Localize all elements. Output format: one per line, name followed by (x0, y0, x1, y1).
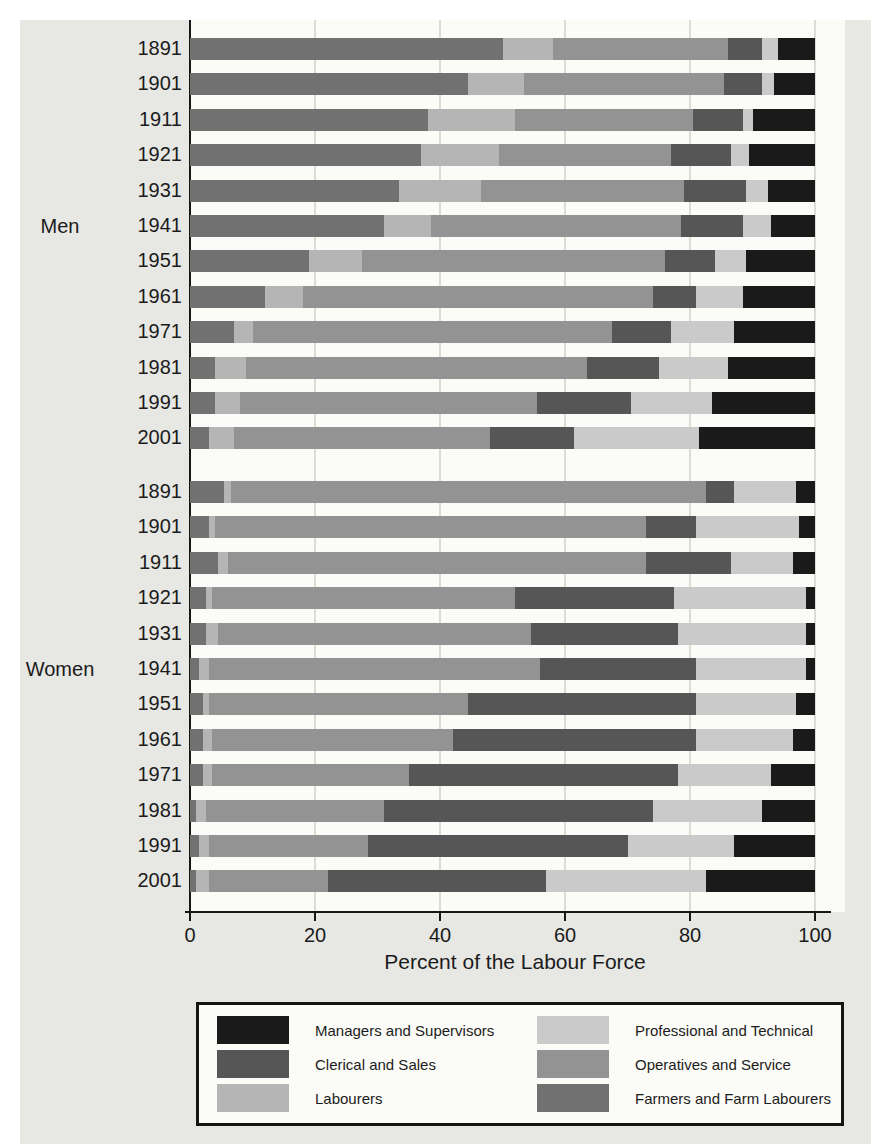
x-tick (814, 913, 816, 921)
bar-segment (362, 250, 665, 272)
bar-segment (481, 180, 684, 202)
bar-segment (499, 144, 671, 166)
bar-segment (265, 286, 303, 308)
bar-segment (218, 623, 531, 645)
year-label: 1951 (0, 692, 182, 715)
bar-segment (209, 658, 540, 680)
year-label: 1931 (0, 179, 182, 202)
bar-segment (665, 250, 715, 272)
bar-row-women-1951 (190, 693, 815, 715)
bar-segment (190, 109, 428, 131)
bar-segment (212, 587, 515, 609)
bar-segment (190, 144, 421, 166)
bar-segment (734, 321, 815, 343)
bar-row-women-1901 (190, 516, 815, 538)
bar-segment (712, 392, 815, 414)
bar-segment (368, 835, 627, 857)
bar-segment (328, 870, 547, 892)
x-tick-label: 80 (650, 924, 730, 947)
bar-row-men-1961 (190, 286, 815, 308)
bar-segment (553, 38, 728, 60)
bar-segment (681, 215, 744, 237)
bar-segment (587, 357, 659, 379)
bar-segment (309, 250, 362, 272)
bar-segment (431, 215, 681, 237)
bar-segment (246, 357, 587, 379)
bar-segment (190, 321, 234, 343)
bar-segment (190, 357, 215, 379)
bar-segment (646, 552, 730, 574)
bar-segment (190, 516, 209, 538)
bar-segment (696, 729, 793, 751)
bar-segment (190, 623, 206, 645)
bar-segment (196, 800, 205, 822)
bar-segment (228, 552, 647, 574)
year-label: 1891 (0, 37, 182, 60)
bar-row-women-1971 (190, 764, 815, 786)
bar-segment (453, 729, 697, 751)
bar-segment (612, 321, 671, 343)
bar-segment (793, 729, 815, 751)
bar-segment (806, 658, 815, 680)
bar-segment (190, 38, 503, 60)
bar-segment (540, 658, 696, 680)
legend-swatch (537, 1050, 609, 1078)
year-label: 1911 (0, 108, 182, 131)
bar-segment (671, 321, 734, 343)
bar-segment (209, 427, 234, 449)
bar-segment (190, 215, 384, 237)
bar-segment (743, 286, 815, 308)
bar-row-men-1891 (190, 38, 815, 60)
x-tick (314, 913, 316, 921)
bar-segment (190, 481, 224, 503)
bar-segment (190, 286, 265, 308)
bar-segment (215, 392, 240, 414)
bar-segment (762, 73, 775, 95)
bar-segment (234, 321, 253, 343)
bar-row-men-1901 (190, 73, 815, 95)
bar-segment (215, 357, 246, 379)
x-tick-label: 100 (775, 924, 855, 947)
bar-segment (303, 286, 653, 308)
bar-segment (537, 392, 631, 414)
bar-segment (684, 180, 747, 202)
bar-segment (628, 835, 734, 857)
year-label: 1971 (0, 320, 182, 343)
x-tick-label: 0 (150, 924, 230, 947)
bar-segment (546, 870, 705, 892)
legend-swatch (537, 1084, 609, 1112)
bar-segment (190, 729, 203, 751)
bar-segment (190, 250, 309, 272)
bar-segment (524, 73, 724, 95)
bar-segment (659, 357, 728, 379)
bar-segment (731, 552, 794, 574)
bar-segment (190, 180, 399, 202)
bar-segment (515, 587, 674, 609)
bar-row-women-1961 (190, 729, 815, 751)
bar-segment (653, 800, 762, 822)
bar-segment (743, 109, 752, 131)
bar-segment (253, 321, 612, 343)
bar-row-men-1931 (190, 180, 815, 202)
year-label: 1971 (0, 763, 182, 786)
bar-segment (468, 693, 696, 715)
legend-label: Farmers and Farm Labourers (609, 1090, 841, 1107)
bar-segment (696, 693, 796, 715)
bar-segment (696, 658, 805, 680)
bar-segment (771, 764, 815, 786)
x-tick (564, 913, 566, 921)
bar-segment (793, 552, 815, 574)
legend-label: Professional and Technical (609, 1022, 841, 1039)
bar-segment (206, 800, 384, 822)
year-label: 1981 (0, 356, 182, 379)
year-label: 1951 (0, 249, 182, 272)
bar-row-women-1941 (190, 658, 815, 680)
bar-segment (806, 623, 815, 645)
bar-row-women-1911 (190, 552, 815, 574)
bar-segment (531, 623, 678, 645)
x-axis-title: Percent of the Labour Force (290, 950, 740, 974)
bar-segment (190, 764, 203, 786)
bar-segment (190, 658, 199, 680)
bar-segment (240, 392, 537, 414)
bar-segment (678, 623, 806, 645)
